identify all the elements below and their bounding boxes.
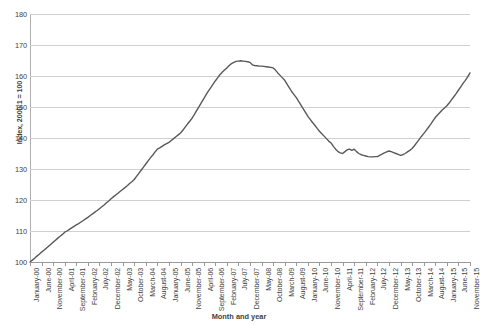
- x-tick-mark: [296, 262, 297, 266]
- x-tick-label: March-14: [427, 268, 435, 297]
- x-tick-mark: [389, 262, 390, 266]
- x-tick-label: May-03: [126, 268, 134, 291]
- x-tick-mark: [354, 262, 355, 266]
- x-tick-label: November-05: [195, 268, 203, 309]
- x-tick-label: December-12: [392, 268, 400, 309]
- x-tick-label: August-04: [160, 268, 168, 299]
- y-tick-label: 140: [15, 134, 27, 143]
- data-series-line: [30, 14, 470, 262]
- x-tick-mark: [447, 262, 448, 266]
- x-tick-label: March-09: [288, 268, 296, 297]
- x-tick-label: September-01: [79, 268, 87, 311]
- y-tick-label: 180: [15, 10, 27, 19]
- x-tick-mark: [308, 262, 309, 266]
- x-tick-label: October-03: [137, 268, 145, 302]
- x-tick-mark: [204, 262, 205, 266]
- plot-area: [30, 14, 470, 262]
- x-tick-mark: [215, 262, 216, 266]
- x-tick-label: June-10: [322, 268, 330, 293]
- x-tick-label: April-11: [346, 268, 354, 291]
- x-tick-mark: [99, 262, 100, 266]
- x-tick-label: October-08: [276, 268, 284, 302]
- x-tick-label: April-01: [68, 268, 76, 291]
- x-tick-mark: [319, 262, 320, 266]
- x-tick-mark: [366, 262, 367, 266]
- x-tick-mark: [238, 262, 239, 266]
- x-tick-label: February-02: [91, 268, 99, 305]
- x-tick-mark: [30, 262, 31, 266]
- x-tick-label: June-05: [184, 268, 192, 293]
- x-tick-label: May-08: [265, 268, 273, 291]
- x-axis-title: Month and year: [0, 312, 478, 321]
- x-tick-label: May-13: [404, 268, 412, 291]
- x-tick-label: November-10: [334, 268, 342, 309]
- x-tick-mark: [88, 262, 89, 266]
- x-tick-mark: [424, 262, 425, 266]
- x-tick-label: July-07: [241, 268, 249, 290]
- x-tick-mark: [181, 262, 182, 266]
- x-tick-mark: [262, 262, 263, 266]
- x-tick-mark: [53, 262, 54, 266]
- x-tick-mark: [250, 262, 251, 266]
- x-tick-label: June-00: [45, 268, 53, 293]
- x-tick-label: July-12: [380, 268, 388, 290]
- x-tick-label: August-09: [299, 268, 307, 299]
- x-tick-label: February-07: [230, 268, 238, 305]
- x-tick-mark: [377, 262, 378, 266]
- x-tick-label: September-11: [357, 268, 365, 311]
- x-tick-mark: [273, 262, 274, 266]
- x-tick-mark: [331, 262, 332, 266]
- x-tick-mark: [42, 262, 43, 266]
- x-tick-label: January-05: [172, 268, 180, 302]
- x-tick-label: January-00: [33, 268, 41, 302]
- x-tick-mark: [192, 262, 193, 266]
- x-tick-mark: [412, 262, 413, 266]
- x-tick-mark: [169, 262, 170, 266]
- x-tick-label: November-00: [56, 268, 64, 309]
- y-tick-label: 160: [15, 72, 27, 81]
- x-tick-mark: [401, 262, 402, 266]
- y-tick-label: 110: [16, 227, 27, 236]
- x-tick-label: April-06: [207, 268, 215, 291]
- y-tick-label: 130: [15, 165, 27, 174]
- x-tick-label: November-15: [473, 268, 481, 309]
- x-tick-label: February-12: [369, 268, 377, 305]
- x-tick-mark: [285, 262, 286, 266]
- x-tick-mark: [458, 262, 459, 266]
- x-tick-mark: [435, 262, 436, 266]
- x-tick-label: October-13: [415, 268, 423, 302]
- y-tick-label: 120: [15, 196, 27, 205]
- x-tick-label: March-04: [149, 268, 157, 297]
- x-tick-mark: [343, 262, 344, 266]
- x-tick-mark: [65, 262, 66, 266]
- y-tick-label: 170: [15, 41, 27, 50]
- x-tick-label: December-02: [114, 268, 122, 309]
- x-tick-mark: [111, 262, 112, 266]
- x-tick-label: January-15: [450, 268, 458, 302]
- y-tick-label: 150: [15, 103, 27, 112]
- x-tick-mark: [134, 262, 135, 266]
- x-tick-label: July-02: [102, 268, 110, 290]
- x-tick-mark: [470, 262, 471, 266]
- x-tick-mark: [227, 262, 228, 266]
- x-tick-mark: [123, 262, 124, 266]
- y-tick-label: 100: [15, 258, 27, 267]
- x-tick-mark: [157, 262, 158, 266]
- x-axis-ticks: [30, 262, 470, 267]
- x-tick-label: June-15: [461, 268, 469, 293]
- x-tick-mark: [76, 262, 77, 266]
- x-axis-tick-labels: January-00June-00November-00April-01Sept…: [30, 268, 470, 318]
- x-tick-mark: [146, 262, 147, 266]
- x-tick-label: August-14: [438, 268, 446, 299]
- x-tick-label: December-07: [253, 268, 261, 309]
- x-tick-label: January-10: [311, 268, 319, 302]
- x-tick-label: September-06: [218, 268, 226, 311]
- y-axis-tick-labels: 100110120130140150160170180: [0, 0, 30, 325]
